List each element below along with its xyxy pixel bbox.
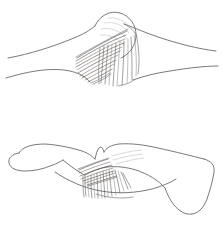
notch [95,147,104,159]
figure-sheet: Upper view Joint shown from above with r… [0,0,224,235]
distal-flare [165,159,214,214]
lower-panel: Lower view Elongated bone in profile wit… [0,118,224,235]
upper-panel: Upper view Joint shown from above with r… [0,0,224,118]
proximal-tip [9,153,63,171]
fiber-bundle [76,29,128,84]
